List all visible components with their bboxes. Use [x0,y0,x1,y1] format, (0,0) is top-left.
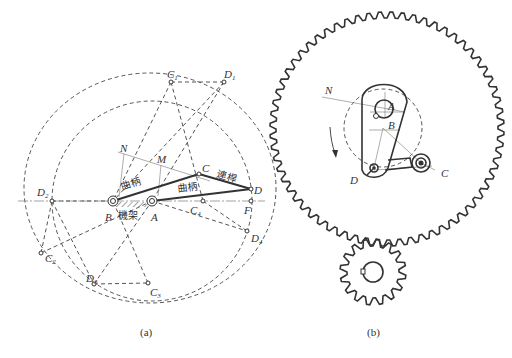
small-gear-keyway [361,269,365,274]
large-gear [270,12,504,246]
label-f: F [243,204,251,216]
label-c4: C4 [190,204,201,218]
joint-points [39,80,253,286]
label-d2: D2 [36,186,49,200]
label-coupler: 連桿 [215,167,238,184]
small-gear-bore [363,262,383,282]
label-n-b: N [324,84,333,96]
pivot-a [147,196,157,206]
label-d1: D1 [223,68,235,82]
label-c2: C2 [45,252,56,266]
rotation-path [330,127,335,153]
bore-a-key [374,114,379,119]
label-m: M [156,153,167,165]
label-crank-1: 曲柄 [119,175,142,192]
label-crank-2: 曲柄 [177,180,198,194]
figure-a: N M C D B A F C1 D1 D2 C2 D3 C3 C4 D4 曲柄… [18,68,276,339]
diagram-canvas: N M C D B A F C1 D1 D2 C2 D3 C3 C4 D4 曲柄… [0,0,512,358]
pivot-b [108,196,118,206]
label-c-b: C [441,167,449,179]
construction-lines [41,82,247,284]
pivot-c [419,161,424,166]
frame-hatch [116,202,149,207]
label-b-b: B [388,119,395,131]
label-a-b: A [387,100,395,112]
label-d3: D3 [85,272,98,286]
label-d: D [253,184,262,196]
caption-b: (b) [367,326,380,339]
label-c: C [202,162,210,174]
label-d-b: D [349,174,358,186]
caption-a: (a) [140,326,153,339]
figure-b: N A B C D (b) [270,12,504,339]
label-a: A [150,211,158,223]
label-c1: C1 [167,68,178,82]
label-n: N [119,142,128,154]
label-frame: 機架 [118,209,138,221]
small-gear [340,239,406,305]
circle-c-path [24,73,276,303]
clockwise-arrow-icon [332,150,338,158]
label-c3: C3 [150,286,161,300]
label-d4: D4 [250,232,263,246]
label-b: B [105,211,112,223]
